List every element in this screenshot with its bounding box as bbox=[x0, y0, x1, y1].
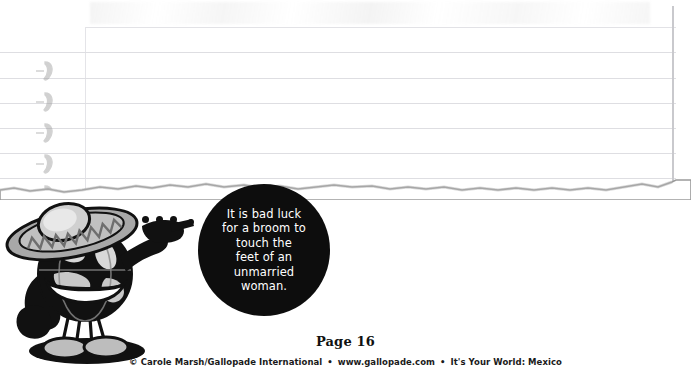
book-title: It's Your World: Mexico bbox=[451, 357, 562, 367]
ruled-line bbox=[0, 52, 676, 53]
spiral-binding-mark bbox=[32, 151, 58, 177]
ruled-line bbox=[0, 153, 676, 154]
fact-line: feet of an bbox=[210, 250, 318, 265]
spiral-binding-mark bbox=[32, 120, 58, 146]
worksheet-page: It is bad luck for a broom to touch the … bbox=[0, 0, 691, 380]
fact-line: unmarried bbox=[210, 265, 318, 280]
fact-line: for a broom to bbox=[210, 221, 318, 236]
fact-line: It is bad luck bbox=[210, 207, 318, 222]
fact-bubble-text: It is bad luck for a broom to touch the … bbox=[210, 207, 318, 294]
ruled-line bbox=[0, 128, 676, 129]
notebook-paper bbox=[0, 0, 691, 196]
footer-separator: • bbox=[438, 357, 447, 367]
fact-line: touch the bbox=[210, 236, 318, 251]
ruled-line bbox=[0, 78, 676, 79]
mascot-left-shoe bbox=[43, 338, 87, 358]
paper-right-border bbox=[672, 6, 674, 192]
spiral-binding-mark bbox=[32, 89, 58, 115]
globe-mascot bbox=[2, 196, 202, 368]
publisher-website[interactable]: www.gallopade.com bbox=[338, 357, 435, 367]
mascot-left-fist bbox=[17, 305, 52, 339]
paper-smudge bbox=[90, 2, 650, 24]
footer-separator: • bbox=[325, 357, 334, 367]
ruled-line bbox=[0, 103, 676, 104]
fact-bubble: It is bad luck for a broom to touch the … bbox=[198, 184, 330, 316]
fact-line: woman. bbox=[210, 279, 318, 294]
paper-top-border bbox=[85, 27, 676, 28]
spiral-binding-mark bbox=[32, 58, 58, 84]
mascot-right-shoe bbox=[84, 337, 128, 357]
